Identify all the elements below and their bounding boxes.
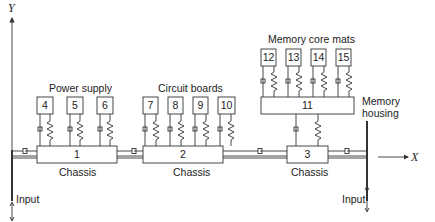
- left-input-label: Input: [16, 194, 39, 205]
- chassis-1-number: 1: [37, 149, 117, 160]
- circuit-boards-label: Circuit boards: [158, 83, 223, 94]
- memory-housing-label: Memory housing: [362, 95, 400, 119]
- chassis-2-label: Chassis: [173, 167, 210, 178]
- box-12-number: 12: [261, 52, 276, 63]
- memory-housing-label-line1: Memory: [362, 95, 400, 107]
- power-supply-suspensions: [38, 114, 113, 146]
- chassis-2-number: 2: [143, 149, 223, 160]
- box-10-number: 10: [218, 100, 235, 111]
- box-9-number: 9: [193, 100, 208, 111]
- box-14-number: 14: [311, 52, 326, 63]
- memory-housing-label-line2: housing: [362, 107, 399, 119]
- box-15-number: 15: [336, 52, 351, 63]
- x-axis-label: X: [411, 151, 418, 163]
- box-8-number: 8: [168, 100, 183, 111]
- chassis-1-label: Chassis: [59, 167, 96, 178]
- power-supply-label: Power supply: [49, 83, 112, 94]
- y-axis-label: Y: [8, 2, 15, 14]
- box-5-number: 5: [67, 100, 83, 111]
- chassis-3-number: 3: [287, 149, 328, 160]
- right-input-label: Input: [342, 194, 365, 205]
- box-11-number: 11: [261, 100, 354, 111]
- circuit-board-suspensions: [143, 114, 234, 146]
- box-6-number: 6: [97, 100, 113, 111]
- box-13-number: 13: [286, 52, 301, 63]
- memory-mat-suspensions: [261, 66, 352, 97]
- chassis-3-label: Chassis: [291, 167, 328, 178]
- box-7-number: 7: [143, 100, 158, 111]
- memory-housing-suspension: [294, 114, 321, 146]
- box-4-number: 4: [37, 100, 53, 111]
- memory-core-mats-label: Memory core mats: [268, 34, 355, 45]
